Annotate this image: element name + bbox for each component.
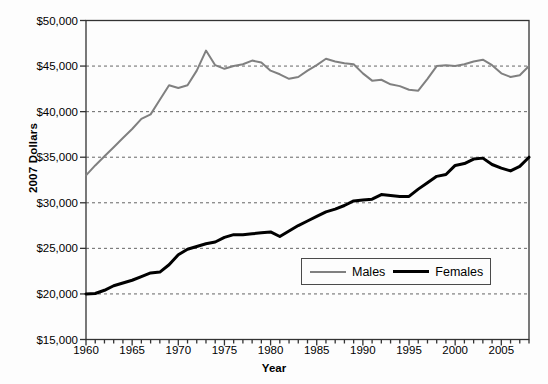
plot-area	[0, 0, 548, 384]
legend: Males Females	[301, 258, 491, 285]
legend-label-males: Males	[352, 265, 385, 279]
line-chart: 2007 Dollars Year $50,000$45,000$40,000$…	[0, 0, 548, 384]
legend-swatch-females-icon	[393, 270, 429, 273]
legend-item-males: Males	[310, 265, 385, 279]
legend-label-females: Females	[435, 265, 483, 279]
axis-frame	[86, 21, 529, 340]
axis-tickmarks	[80, 21, 529, 346]
legend-swatch-males-icon	[310, 271, 346, 273]
legend-item-females: Females	[393, 265, 483, 279]
